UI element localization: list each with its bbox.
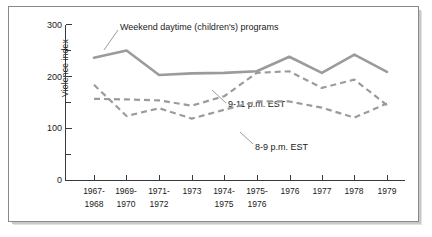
x-tick-label-0-line1: 1967- [83, 186, 105, 196]
chart-figure: Violence index 300 200 100 0 1967- 1969-… [0, 0, 432, 237]
x-tick-label-1-line2: 1970 [117, 199, 136, 209]
y-tick-label-100: 100 [36, 123, 62, 133]
x-tick-label-7-line1: 1977 [313, 186, 332, 196]
x-tick-label-3-line1: 1973 [183, 186, 202, 196]
x-tick-label-4-line2: 1975 [215, 199, 234, 209]
x-tick-label-4-line1: 1974- [213, 186, 235, 196]
y-axis-title: Violence index [54, 38, 66, 98]
x-tick-label-8-line1: 1978 [345, 186, 364, 196]
y-tick-label-200: 200 [36, 72, 62, 82]
x-tick-label-2-line2: 1972 [150, 199, 169, 209]
x-tick-label-5-line1: 1975- [246, 186, 268, 196]
x-tick-label-5-line2: 1976 [248, 199, 267, 209]
x-tick-label-2-line1: 1971- [148, 186, 170, 196]
series-label-weekend-daytime: Weekend daytime (children's) programs [120, 22, 279, 32]
series-label-9-11pm: 9-11 p.m. EST [228, 99, 285, 109]
x-tick-label-0-line2: 1968 [85, 199, 104, 209]
y-tick-label-300: 300 [36, 20, 62, 30]
x-tick-label-9-line1: 1979 [378, 186, 397, 196]
y-axis-title-text: Violence index [60, 39, 70, 97]
series-label-8-9pm: 8-9 p.m. EST [255, 142, 308, 152]
x-tick-label-1-line1: 1969- [115, 186, 137, 196]
y-tick-label-0: 0 [36, 175, 62, 185]
x-tick-label-6-line1: 1976 [281, 186, 300, 196]
